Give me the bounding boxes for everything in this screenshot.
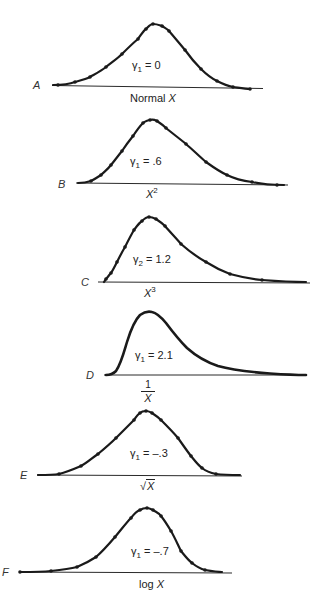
xlabel-exponent: 2 [153,186,157,195]
panel-e-letter: E [20,469,27,481]
panel-e-skewness: γ1 = –.3 [130,447,168,462]
panel-d-letter: D [86,369,94,381]
panel-d-xlabel: 1X [141,379,155,404]
panel-e-baseline [37,475,242,476]
panel-b-letter: B [58,178,65,190]
panel-f-letter: F [2,566,9,578]
panel-c-curve [104,217,306,282]
panel-e-data-points [57,409,218,476]
panel-a-skewness: γ1 = 0 [132,59,161,74]
panel-a-chart [52,22,263,91]
xlabel-prefix: log [139,578,157,590]
fraction-denominator: X [141,392,155,404]
fraction-numerator: 1 [141,379,155,392]
panel-c-letter: C [81,276,89,288]
panel-c-chart [98,215,310,283]
panel-e-chart [37,409,242,476]
panel-f-skewness: γ1 = –.7 [131,545,169,560]
panel-a-xlabel: Normal X [130,92,176,104]
panel-f-xlabel: log X [139,578,164,590]
panel-a-curve [53,24,250,89]
panel-c-data-points [104,215,264,282]
xlabel-prefix: Normal [130,92,169,104]
skewness-value: = 2.1 [145,349,173,361]
panel-b-curve [78,120,284,185]
panel-b-chart [76,118,288,187]
skewness-value: = .6 [140,155,162,167]
skewness-value: = –.3 [140,447,168,459]
panel-b-skewness: γ1 = .6 [130,155,162,170]
xlabel-variable: X [146,479,155,492]
panel-b-data-points [89,118,279,187]
xlabel-variable: X [157,578,164,590]
skewness-value: = 1.2 [143,253,171,265]
panel-f-chart [18,506,232,574]
panel-c-skewness: γ2 = 1.2 [133,253,171,268]
skewness-value: = –.7 [141,545,169,557]
panel-a-data-points [56,22,252,91]
panel-d-curve [106,312,306,375]
xlabel-exponent: 3 [151,285,155,294]
panel-d-chart [104,312,306,375]
panel-e-xlabel: √X [140,480,155,492]
panel-c-xlabel: X3 [144,285,156,299]
xlabel-variable: X [169,92,176,104]
panel-b-xlabel: X2 [146,186,158,200]
panel-a-letter: A [33,79,40,91]
distribution-figure [0,0,322,601]
skewness-value: = 0 [142,59,161,71]
panel-d-skewness: γ1 = 2.1 [135,349,173,364]
panel-e-curve [38,411,240,475]
